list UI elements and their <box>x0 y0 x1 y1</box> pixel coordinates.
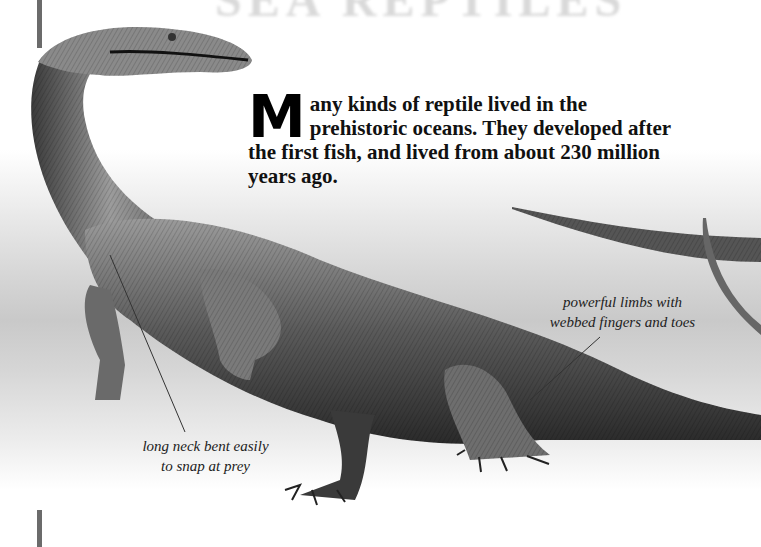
intro-text: any kinds of reptile lived in the prehis… <box>248 92 671 188</box>
callout-limbs: powerful limbs with webbed fingers and t… <box>535 292 710 332</box>
callout-limbs-line1: powerful limbs with <box>535 292 710 312</box>
drop-cap: M <box>248 94 306 140</box>
callout-neck-line1: long neck bent easily <box>128 436 283 456</box>
callout-neck: long neck bent easily to snap at prey <box>128 436 283 476</box>
reptile-illustration <box>0 0 761 547</box>
callout-neck-line2: to snap at prey <box>128 456 283 476</box>
callout-limbs-line2: webbed fingers and toes <box>535 312 710 332</box>
intro-paragraph: Many kinds of reptile lived in the prehi… <box>248 92 678 188</box>
